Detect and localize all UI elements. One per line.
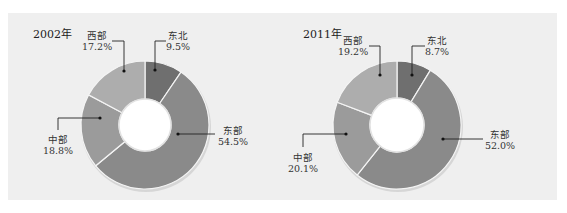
label-xibu: 西部 19.2% (338, 35, 368, 57)
label-value: 17.2% (82, 41, 112, 52)
label-value: 54.5% (216, 136, 250, 147)
label-zhongbu: 中部 18.8% (42, 134, 74, 156)
label-name: 东北 (422, 35, 452, 46)
label-dongbu: 东部 54.5% (216, 125, 250, 147)
label-value: 18.8% (42, 145, 74, 156)
label-dongbu: 东部 52.0% (483, 129, 517, 151)
label-value: 19.2% (338, 46, 368, 57)
label-name: 东北 (163, 30, 193, 41)
label-name: 西部 (338, 35, 368, 46)
donut-2002-svg (0, 13, 283, 200)
label-name: 东部 (483, 129, 517, 140)
label-value: 9.5% (163, 41, 193, 52)
label-dongbei: 东北 9.5% (163, 30, 193, 52)
label-value: 8.7% (422, 46, 452, 57)
label-xibu: 西部 17.2% (82, 30, 112, 52)
donut-slices (81, 61, 211, 192)
donut-slices (333, 61, 463, 192)
label-name: 中部 (42, 134, 74, 145)
label-dongbei: 东北 8.7% (422, 35, 452, 57)
donut-chart-2011: 2011年 西部 19.2% 东北 8.7% 中部 20.1% 东部 52.0% (283, 13, 567, 200)
label-name: 东部 (216, 125, 250, 136)
donut-chart-2002: 2002年 西部 17.2% 东北 9.5% 中部 18.8% 东部 54.5% (0, 13, 283, 200)
label-name: 中部 (286, 152, 320, 163)
donut-hole (370, 98, 424, 152)
label-zhongbu: 中部 20.1% (286, 152, 320, 174)
label-name: 西部 (82, 30, 112, 41)
label-value: 52.0% (483, 140, 517, 151)
donut-hole (119, 99, 171, 151)
label-value: 20.1% (286, 163, 320, 174)
